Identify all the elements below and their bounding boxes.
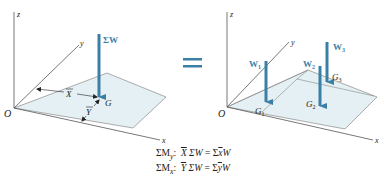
eq2-axis: x — [170, 167, 174, 176]
right-diagram: z y x O W1 G1 W2 G2 W3 G3 — [218, 10, 379, 145]
centroid-g3-label: G3 — [332, 72, 342, 83]
left-z-label: z — [16, 10, 21, 19]
right-z-label: z — [229, 10, 234, 19]
eq2-lhs-rest: ΣW — [189, 163, 203, 173]
right-x-label: x — [374, 136, 379, 145]
right-origin-label: O — [218, 108, 225, 119]
equals-sign — [183, 58, 202, 68]
xbar-label: X — [65, 89, 72, 99]
statics-centroid-diagram: z y x O X Y ΣW G — [0, 0, 384, 180]
right-plate — [227, 70, 377, 129]
eq1-lhs-rest: ΣW — [189, 148, 203, 158]
eq2-rhs-rest: W — [222, 163, 230, 173]
equation-moment-y: ΣMy: X ΣW = ΣxW — [156, 148, 230, 161]
eq1-axis: y — [170, 152, 174, 161]
left-x-label: x — [161, 136, 166, 145]
left-y-label: y — [79, 39, 84, 48]
eq1-moment: ΣM — [156, 148, 170, 158]
equation-moment-x: ΣMx: Y ΣW = ΣyW — [156, 163, 230, 176]
eq1-rhs-rest: W — [223, 148, 231, 158]
left-diagram: z y x O X Y ΣW G — [4, 10, 166, 145]
weight-3-label: W3 — [333, 42, 345, 53]
weight-1-label: W1 — [249, 59, 261, 70]
eq2-lhs-bar: Y — [181, 163, 186, 173]
centroid-g-label: G — [105, 98, 112, 108]
eq2-moment: ΣM — [156, 163, 170, 173]
eq1-lhs-bar: X — [181, 148, 187, 158]
sum-weight-label: ΣW — [103, 35, 118, 45]
right-y-label: y — [290, 38, 295, 47]
left-plate — [14, 73, 166, 128]
weight-2-label: W2 — [303, 59, 315, 70]
left-origin-label: O — [4, 108, 11, 119]
